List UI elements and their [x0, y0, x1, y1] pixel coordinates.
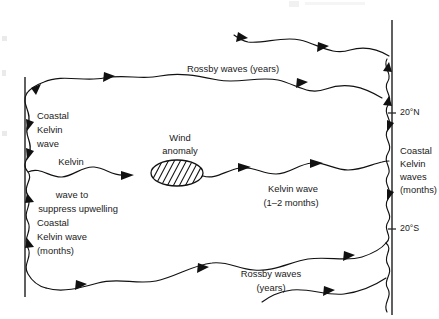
diagram-canvas: Rossby waves (years) Coastal Kelvin wave… [0, 0, 439, 319]
axis-tick-label-20s: 20°S [400, 223, 419, 233]
coastal-west-arrow-down-1 [26, 119, 34, 131]
label-kelvin-suppress-3: suppress upwelling [38, 203, 118, 214]
kelvin-wave-east-arrow-2 [310, 159, 323, 168]
kelvin-wave-west-path [28, 167, 124, 177]
label-coastal-kelvin-east-4: (months) [400, 184, 437, 195]
coastal-west-arrow-up-1 [25, 193, 34, 203]
label-kelvin-suppress-1: Kelvin [58, 156, 84, 167]
rossby-south-arrow-west [75, 280, 87, 290]
label-kelvin-wave-2: (1–2 months) [263, 197, 318, 208]
label-coastal-kelvin-west-top-2: Kelvin [37, 124, 63, 135]
label-coastal-kelvin-east-2: Kelvin [400, 158, 426, 169]
axis-tick-label-20n: 20°N [400, 107, 420, 117]
coastal-east-arrow-down-2 [387, 189, 394, 201]
label-coastal-kelvin-west-bottom-2: Kelvin wave [37, 231, 87, 242]
label-wind-anomaly-1: Wind [169, 132, 190, 143]
rossby-north-arrow-east [296, 78, 308, 88]
label-kelvin-wave-1: Kelvin wave [268, 183, 318, 194]
label-coastal-kelvin-west-bottom-3: (months) [37, 245, 74, 256]
coastal-east-arrow-down-1 [387, 120, 394, 132]
rossby-wave-north-path [27, 74, 382, 98]
wind-anomaly-ellipse [151, 160, 203, 186]
kelvin-wave-east-arrow-1 [238, 163, 251, 172]
label-rossby-waves-bottom-2: (years) [256, 282, 285, 293]
label-kelvin-suppress-2: wave to [55, 189, 88, 200]
wave-propagation-diagram: Rossby waves (years) Coastal Kelvin wave… [0, 0, 439, 319]
label-coastal-kelvin-east-3: waves [399, 171, 427, 182]
label-coastal-kelvin-east-1: Coastal [400, 145, 432, 156]
coastal-kelvin-wave-east-path [386, 59, 390, 243]
label-coastal-kelvin-west-bottom-1: Coastal [37, 217, 69, 228]
coastal-west-arrow-down-2 [26, 148, 34, 160]
rossby-south-arrow-east [343, 251, 355, 261]
label-coastal-kelvin-west-top-1: Coastal [37, 110, 69, 121]
coastal-east-arrow-up-1 [383, 62, 392, 72]
rossby-wave-exit-north-path [234, 35, 389, 56]
coastal-east-arrow-up-2 [383, 96, 392, 106]
rossby-wave-south-path [46, 243, 386, 290]
label-coastal-kelvin-west-top-3: wave [36, 138, 59, 149]
label-rossby-waves-top: Rossby waves (years) [187, 63, 279, 74]
label-wind-anomaly-2: anomaly [162, 145, 198, 156]
kelvin-wave-east-path [203, 161, 389, 177]
rossby-exit-north-arrow-east [317, 42, 329, 52]
kelvin-wave-west-arrow [121, 171, 134, 180]
label-rossby-waves-bottom-1: Rossby waves [241, 268, 302, 279]
